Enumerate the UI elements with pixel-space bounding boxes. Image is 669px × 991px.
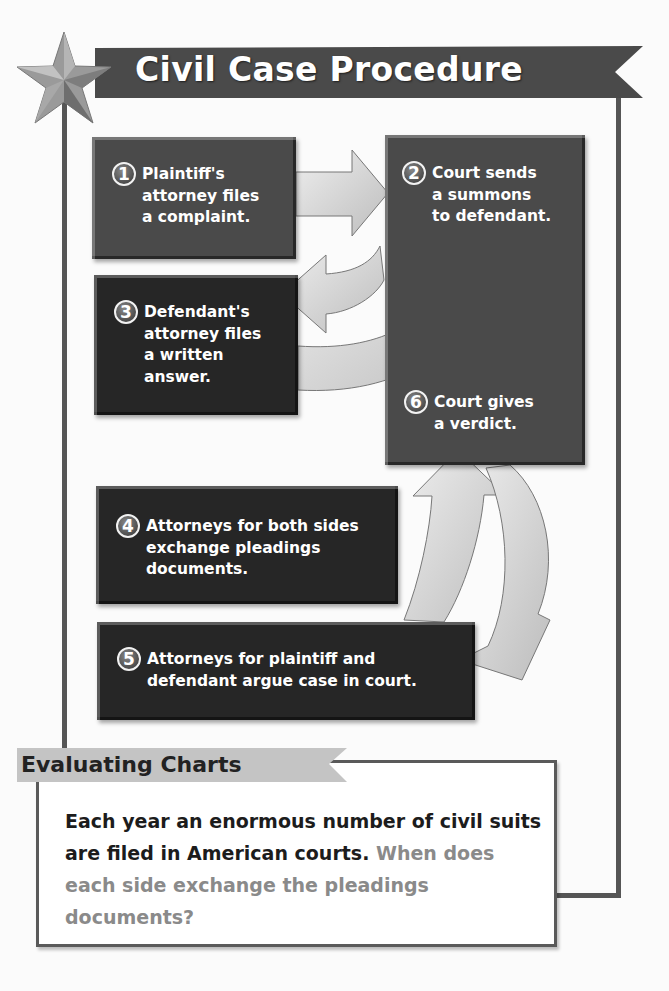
step-3-number-icon: 3 [114,300,138,324]
evaluating-charts-body: Each year an enormous number of civil su… [65,805,545,933]
step-5-number-icon: 5 [117,647,141,671]
step-5-box: 5 Attorneys for plaintiff and defendant … [97,622,475,720]
step-4-box: 4 Attorneys for both sides exchange plea… [96,486,398,604]
evaluating-charts-heading: Evaluating Charts [21,752,242,777]
step-6-text: Court gives a verdict. [434,392,534,435]
step-1-number-icon: 1 [112,162,136,186]
step-2-text: Court sends a summons to defendant. [432,163,551,228]
step-5-text: Attorneys for plaintiff and defendant ar… [147,649,417,692]
step-4-text: Attorneys for both sides exchange pleadi… [146,516,359,581]
step-6-number-icon: 6 [404,390,428,414]
step-3-text: Defendant's attorney files a written ans… [144,302,261,388]
step-4-number-icon: 4 [116,514,140,538]
step-1-text: Plaintiff's attorney files a complaint. [142,164,259,229]
step-3-box: 3 Defendant's attorney files a written a… [94,275,298,415]
step-2-number-icon: 2 [402,161,426,185]
evaluating-charts-box: Each year an enormous number of civil su… [36,760,557,947]
arrow-1-to-2 [296,150,388,236]
step-1-box: 1 Plaintiff's attorney files a complaint… [92,137,296,259]
step-2-6-box: 2 Court sends a summons to defendant. 6 … [385,135,585,465]
